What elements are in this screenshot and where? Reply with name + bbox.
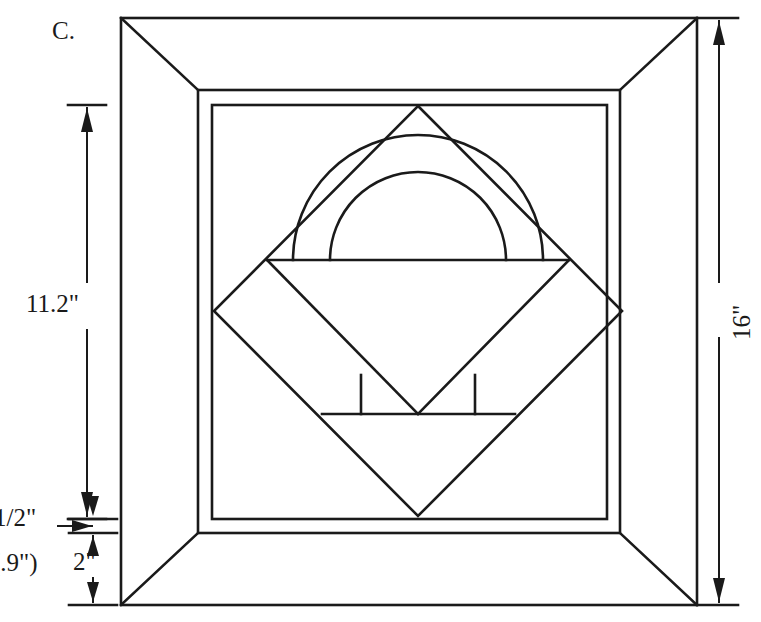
dimension-label-outer-border: 2" [73, 549, 96, 574]
miter-line-bottom-right [620, 533, 697, 605]
dimension-label-left-height: 11.2" [26, 291, 79, 316]
quilt-block-figure [0, 0, 761, 622]
dimension-inner-border-half-inch [58, 519, 117, 533]
dimension-half-arrowhead [72, 520, 92, 532]
dimension-left-arrowhead-top [81, 108, 93, 132]
dimension-right-arrowhead-bottom [713, 578, 725, 602]
miter-line-bottom-left [121, 533, 198, 605]
miter-frame [198, 90, 620, 533]
dimension-right-arrowhead-top [713, 21, 725, 45]
panel-letter: C. [52, 18, 75, 43]
basket-handle-outer-arc [293, 135, 543, 260]
basket-handle-inner-arc [330, 172, 506, 260]
miter-line-top-right [620, 18, 697, 90]
dimension-two-arrowhead-bottom [87, 582, 99, 602]
dimension-label-inner-border-alt: (.9") [0, 550, 38, 575]
center-diamond [214, 106, 622, 516]
inner-border-frame [212, 105, 607, 519]
basket-body-right-edge [418, 260, 569, 414]
dimension-label-inner-border: 1/2" [0, 505, 36, 530]
basket-body-left-edge [267, 260, 418, 414]
dimension-label-right-height: 16" [728, 305, 756, 340]
miter-line-top-left [121, 18, 198, 90]
